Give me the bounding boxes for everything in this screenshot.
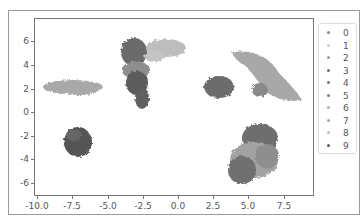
legend-item-3: 3 [319,65,356,77]
legend-item-8: 8 [319,127,356,139]
y-tick-label: -6 [7,178,29,188]
x-tickmark [213,196,214,199]
cluster-9-bottom [64,127,92,157]
marker-icon [327,144,330,147]
x-tick-label: -2.5 [126,201,160,211]
legend-label: 6 [343,102,349,114]
x-tick-label: 5.0 [231,201,265,211]
y-tickmark [31,65,34,66]
legend-item-7: 7 [319,115,356,127]
x-tick-label: 7.5 [267,201,301,211]
x-tickmark [284,196,285,199]
y-tickmark [31,41,34,42]
cluster-8-top [144,39,186,62]
legend-item-9: 9 [319,140,356,152]
y-tickmark [31,159,34,160]
legend-label: 7 [343,115,349,127]
cluster-central [121,38,150,109]
legend: 0 1 2 3 4 5 6 7 8 9 [318,23,357,154]
x-tick-label: 2.5 [196,201,230,211]
x-tickmark [37,196,38,199]
marker-icon [327,81,330,84]
legend-item-6: 6 [319,102,356,114]
y-tickmark [31,89,34,90]
x-tickmark [248,196,249,199]
marker-icon [327,69,330,72]
x-tick-label: 0.0 [161,201,195,211]
legend-label: 3 [343,65,349,77]
legend-item-1: 1 [319,40,356,52]
y-tick-label: 2 [7,84,29,94]
marker-icon [327,119,330,122]
legend-item-5: 5 [319,90,356,102]
y-tick-label: 6 [7,36,29,46]
legend-label: 1 [343,40,349,52]
legend-item-2: 2 [319,52,356,64]
y-tick-label: 4 [7,60,29,70]
x-tickmark [108,196,109,199]
legend-label: 0 [343,27,349,39]
y-tickmark [31,136,34,137]
legend-label: 5 [343,90,349,102]
legend-label: 2 [343,52,349,64]
x-tick-label: -10.0 [20,201,54,211]
x-tickmark [72,196,73,199]
legend-label: 9 [343,140,349,152]
cluster-6 [43,80,103,95]
cluster-1-7 [232,51,302,101]
marker-icon [327,44,330,47]
cluster-3 [204,76,234,98]
x-tick-label: -7.5 [55,201,89,211]
marker-icon [327,94,330,97]
scatter-plot [34,18,314,196]
legend-label: 8 [343,127,349,139]
marker-icon [327,131,330,134]
x-tickmark [143,196,144,199]
legend-item-0: 0 [319,27,356,39]
marker-icon [327,106,330,109]
marker-icon [327,56,330,59]
y-tick-label: 0 [7,107,29,117]
x-tickmark [178,196,179,199]
cluster-0-8 [228,124,279,184]
legend-item-4: 4 [319,77,356,89]
y-tick-label: -2 [7,131,29,141]
y-tickmark [31,183,34,184]
y-tick-label: -4 [7,154,29,164]
legend-label: 4 [343,77,349,89]
x-tick-label: -5.0 [91,201,125,211]
y-tickmark [31,112,34,113]
marker-icon [327,31,330,34]
